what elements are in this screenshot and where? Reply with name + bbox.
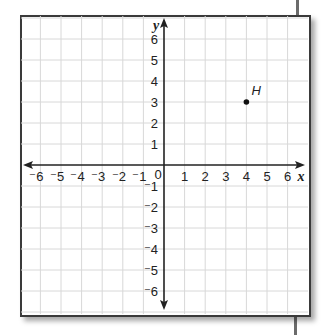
x-tick-label: 1 [181,169,188,184]
coordinate-plane-figure: ⁻6⁻5⁻4⁻3⁻2⁻11234560xy123456⁻1⁻2⁻3⁻4⁻5⁻6 … [0,0,323,335]
y-tick-label: 3 [151,95,158,110]
y-tick-label: ⁻1 [144,179,158,194]
y-tick-label: ⁻6 [144,284,158,299]
x-axis-label: x [297,169,305,184]
y-tick-label: 2 [151,116,158,131]
point-h-marker [244,99,250,105]
x-tick-label: 4 [243,169,250,184]
x-tick-label: ⁻6 [29,169,43,184]
y-tick-label: 6 [151,32,158,47]
x-tick-label: 6 [284,169,291,184]
point-h-label: H [251,83,261,98]
y-tick-label: 5 [151,53,158,68]
axes [23,18,305,310]
coordinate-grid: ⁻6⁻5⁻4⁻3⁻2⁻11234560xy123456⁻1⁻2⁻3⁻4⁻5⁻6 … [0,0,323,335]
x-tick-label: 5 [263,169,270,184]
x-tick-label: 3 [222,169,229,184]
y-tick-label: 4 [151,74,158,89]
x-tick-label: ⁻5 [50,169,64,184]
y-axis-label: y [151,18,160,33]
y-tick-label: ⁻3 [144,221,158,236]
y-tick-label: 1 [151,137,158,152]
x-tick-label: ⁻3 [91,169,105,184]
y-tick-label: ⁻5 [144,263,158,278]
y-tick-label: ⁻2 [144,200,158,215]
x-tick-label: ⁻2 [112,169,126,184]
x-tick-label: 2 [202,169,209,184]
x-tick-label: ⁻4 [70,169,84,184]
y-tick-label: ⁻4 [144,242,158,257]
